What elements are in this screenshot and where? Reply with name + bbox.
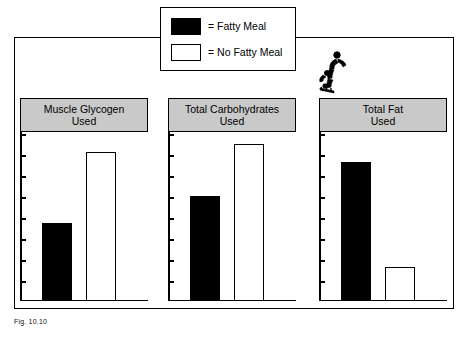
y-axis-tick	[319, 260, 325, 262]
bar-fatty-meal	[42, 223, 72, 301]
bar-fatty-meal	[341, 162, 371, 301]
plot-area-total-carbohydrates	[168, 132, 296, 301]
y-axis-tick	[20, 176, 26, 178]
bar-no-fatty-meal	[234, 144, 264, 301]
y-axis	[319, 132, 321, 301]
legend-label-no-fatty-meal: = No Fatty Meal	[208, 47, 282, 58]
x-axis	[168, 300, 296, 302]
chart-legend: = Fatty Meal = No Fatty Meal	[160, 7, 296, 71]
y-axis-tick	[319, 218, 325, 220]
y-axis-tick	[319, 155, 325, 157]
y-axis-tick	[168, 260, 174, 262]
panel-title-total-carbohydrates: Total Carbohydrates Used	[168, 98, 296, 132]
bar-no-fatty-meal	[385, 267, 415, 301]
y-axis-tick	[20, 260, 26, 262]
plot-area-muscle-glycogen	[20, 132, 148, 301]
legend-swatch-filled	[171, 18, 201, 35]
y-axis	[168, 132, 170, 301]
chart-panel-total-carbohydrates: Total Carbohydrates Used	[168, 98, 296, 301]
chart-page: = Fatty Meal = No Fatty Meal	[0, 0, 467, 337]
panel-title-line2: Used	[220, 115, 245, 127]
panel-title-line2: Used	[371, 115, 396, 127]
legend-entry-fatty-meal: = Fatty Meal	[171, 18, 266, 35]
y-axis-tick	[20, 134, 26, 136]
legend-label-fatty-meal: = Fatty Meal	[208, 21, 266, 32]
panel-title-muscle-glycogen: Muscle Glycogen Used	[20, 98, 148, 132]
y-axis-tick	[20, 155, 26, 157]
y-axis-tick	[168, 218, 174, 220]
y-axis	[20, 132, 22, 301]
bar-fatty-meal	[190, 196, 220, 301]
chart-panel-muscle-glycogen: Muscle Glycogen Used	[20, 98, 148, 301]
plot-area-total-fat	[319, 132, 447, 301]
runner-figure-icon	[317, 50, 351, 94]
y-axis-tick	[168, 197, 174, 199]
y-axis-tick	[20, 218, 26, 220]
y-axis-tick	[319, 176, 325, 178]
y-axis-tick	[20, 281, 26, 283]
y-axis-tick	[168, 281, 174, 283]
y-axis-tick	[168, 134, 174, 136]
panel-title-line1: Muscle Glycogen	[44, 103, 125, 115]
bar-no-fatty-meal	[86, 152, 116, 301]
y-axis-tick	[319, 239, 325, 241]
y-axis-tick	[168, 239, 174, 241]
y-axis-tick	[319, 281, 325, 283]
y-axis-tick	[168, 155, 174, 157]
y-axis-tick	[319, 134, 325, 136]
panel-title-line1: Total Carbohydrates	[185, 103, 279, 115]
x-axis	[20, 300, 148, 302]
y-axis-tick	[20, 239, 26, 241]
figure-caption: Fig. 10.10	[14, 318, 47, 325]
y-axis-tick	[168, 176, 174, 178]
x-axis	[319, 300, 447, 302]
y-axis-tick	[319, 197, 325, 199]
chart-panel-total-fat: Total Fat Used	[319, 98, 447, 301]
panel-title-line1: Total Fat	[363, 103, 403, 115]
legend-swatch-hollow	[171, 44, 201, 61]
panel-title-total-fat: Total Fat Used	[319, 98, 447, 132]
y-axis-tick	[20, 197, 26, 199]
legend-entry-no-fatty-meal: = No Fatty Meal	[171, 44, 282, 61]
panel-title-line2: Used	[72, 115, 97, 127]
